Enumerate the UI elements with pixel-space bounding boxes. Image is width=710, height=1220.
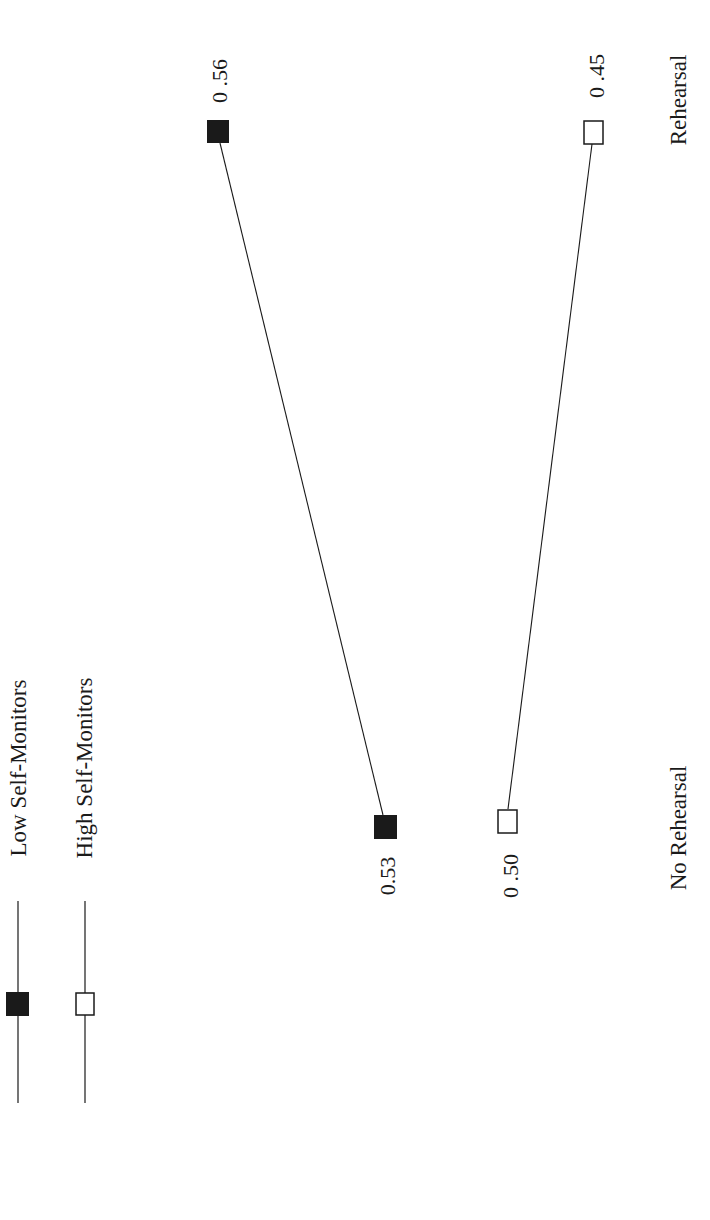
- legend-label-low: Low Self-Monitors: [6, 679, 31, 856]
- legend: Low Self-Monitors High Self-Monitors: [6, 678, 97, 1103]
- interaction-line-chart: Low Self-Monitors High Self-Monitors 0.5…: [0, 0, 710, 1220]
- series-low-self-monitors: 0.53 0 .56: [207, 59, 400, 895]
- category-label-no-rehearsal: No Rehearsal: [666, 766, 691, 891]
- value-label-high-rehearsal: 0 .45: [584, 54, 609, 98]
- category-axis: No Rehearsal Rehearsal: [666, 55, 691, 891]
- series-high-self-monitors: 0 .50 0 .45: [498, 54, 609, 898]
- legend-entry-low-self-monitors: Low Self-Monitors: [6, 679, 31, 1103]
- value-label-high-no-rehearsal: 0 .50: [498, 854, 523, 898]
- data-point-high-rehearsal: [584, 121, 603, 144]
- data-point-low-no-rehearsal: [374, 815, 397, 839]
- data-point-high-no-rehearsal: [498, 810, 517, 833]
- series-line-low: [220, 143, 383, 815]
- legend-entry-high-self-monitors: High Self-Monitors: [72, 678, 97, 1103]
- value-label-low-no-rehearsal: 0.53: [375, 857, 400, 896]
- category-label-rehearsal: Rehearsal: [666, 55, 691, 146]
- open-square-icon: [76, 993, 94, 1015]
- value-label-low-rehearsal: 0 .56: [207, 59, 232, 103]
- filled-square-icon: [6, 992, 29, 1016]
- data-point-low-rehearsal: [207, 120, 229, 143]
- legend-label-high: High Self-Monitors: [72, 678, 97, 859]
- series-line-high: [508, 144, 592, 809]
